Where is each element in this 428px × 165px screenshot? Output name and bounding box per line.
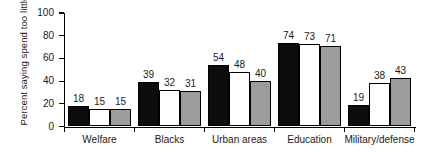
- x-axis-line: [64, 127, 416, 128]
- bar-urban-areas-series-2: [229, 72, 250, 126]
- x-tick-2: [204, 127, 205, 132]
- bar-education-series-3: [320, 46, 341, 127]
- bar-value-label: 31: [176, 79, 205, 89]
- x-tick-4: [344, 127, 345, 132]
- x-tick-start: [64, 127, 65, 132]
- y-tick-label-20: 20: [14, 99, 54, 109]
- y-tick-100: [59, 12, 64, 13]
- y-tick-label-80: 80: [14, 31, 54, 41]
- x-tick-5: [414, 127, 415, 132]
- y-axis-line: [64, 13, 65, 127]
- bar-blacks-series-2: [159, 90, 180, 126]
- y-tick-label-100: 100: [14, 8, 54, 18]
- bar-education-series-2: [299, 44, 320, 127]
- x-group-label-military-defense: Military/defense: [330, 135, 428, 145]
- y-tick-label-40: 40: [14, 76, 54, 86]
- y-tick-label-0: 0: [14, 122, 54, 132]
- x-tick-1: [134, 127, 135, 132]
- bar-blacks-series-1: [138, 82, 159, 126]
- bar-urban-areas-series-3: [250, 81, 271, 126]
- bar-military-defense-series-1: [348, 105, 369, 127]
- x-tick-3: [274, 127, 275, 132]
- bar-chart: Percent saying spend too little 02040608…: [0, 0, 428, 165]
- bar-welfare-series-1: [68, 106, 89, 126]
- bar-value-label: 43: [386, 66, 415, 76]
- bar-value-label: 71: [316, 34, 345, 44]
- bar-military-defense-series-2: [369, 83, 390, 126]
- bar-value-label: 40: [246, 69, 275, 79]
- y-axis-title: Percent saying spend too little: [18, 0, 29, 136]
- bar-urban-areas-series-1: [208, 65, 229, 126]
- y-tick-80: [59, 35, 64, 36]
- bar-military-defense-series-3: [390, 78, 411, 127]
- y-tick-40: [59, 81, 64, 82]
- bar-welfare-series-3: [110, 109, 131, 126]
- bar-blacks-series-3: [180, 91, 201, 126]
- bar-welfare-series-2: [89, 109, 110, 126]
- y-tick-60: [59, 58, 64, 59]
- bar-education-series-1: [278, 43, 299, 127]
- bar-value-label: 15: [106, 97, 135, 107]
- y-tick-label-60: 60: [14, 53, 54, 63]
